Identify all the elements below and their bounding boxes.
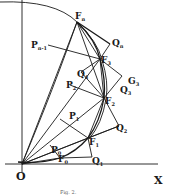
label-P2: P2 — [66, 80, 77, 91]
label-Q1: Q1 — [92, 156, 103, 167]
label-Q4: Q4 — [77, 69, 89, 80]
label-Pn-1: Pn-1 — [31, 40, 47, 51]
x-axis-label: X — [154, 174, 163, 187]
label-G3: G3 — [128, 76, 140, 87]
origin-label: O — [16, 170, 26, 183]
label-F1: F1 — [89, 137, 99, 148]
label-F3: F3 — [101, 55, 111, 66]
figure-caption: Fig. 2. — [60, 189, 77, 195]
label-F2: F2 — [105, 96, 115, 107]
construction-lines — [48, 22, 122, 158]
label-Q2: Q2 — [116, 123, 128, 134]
geometric-construction-diagram: Fn Qn Pn-1 F3 G3 Q4 Q3 P2 F2 P1 Q2 F1 P0… — [0, 0, 175, 195]
label-Fn: Fn — [75, 11, 85, 22]
label-P1: P1 — [69, 111, 79, 122]
label-Qn: Qn — [112, 38, 124, 49]
label-Q3: Q3 — [120, 85, 132, 96]
